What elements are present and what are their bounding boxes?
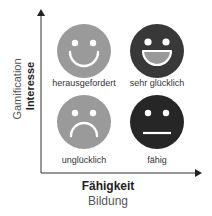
x-axis-title: Fähigkeit <box>82 179 135 193</box>
y-axis-arrow-icon <box>37 9 45 16</box>
x-axis-subtitle: Bildung <box>88 194 128 208</box>
neutral-face-icon <box>130 95 184 149</box>
y-axis-title: Interesse <box>24 62 36 110</box>
smile-face-icon <box>57 24 111 78</box>
label-faehig: fähig <box>147 155 167 165</box>
frown-face-icon <box>57 95 111 149</box>
x-axis-arrow-icon <box>195 169 202 177</box>
label-sehr-gluecklich: sehr glücklich <box>130 78 185 88</box>
big-grin-face-icon <box>130 24 184 78</box>
label-herausgefordert: herausgefordert <box>52 78 116 88</box>
y-axis-subtitle: Gamification <box>11 58 23 119</box>
label-ungluecklich: unglücklich <box>62 155 107 165</box>
